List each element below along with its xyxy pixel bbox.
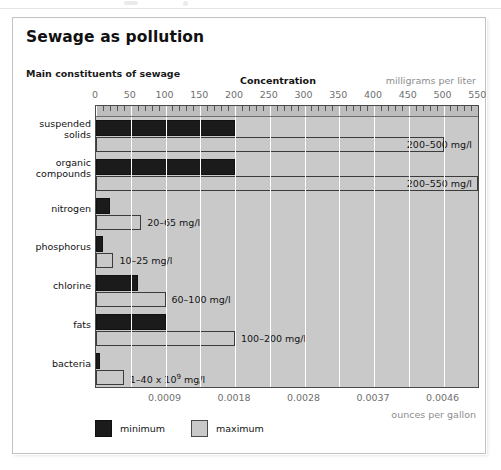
axis-minor-tick xyxy=(284,106,285,111)
axis-minor-tick xyxy=(430,106,431,111)
x-tick-label-primary: 350 xyxy=(329,89,347,100)
axis-minor-tick xyxy=(395,106,396,111)
axis-major-tick xyxy=(374,106,375,117)
bar-value-label: 100–200 mg/l xyxy=(241,331,306,346)
bar-row: 1–40 x 109 mg/l xyxy=(96,353,478,387)
y-axis-category-label: phosphorus xyxy=(13,241,91,252)
axis-major-tick xyxy=(305,106,306,117)
gridline xyxy=(339,117,340,387)
legend-item[interactable]: minimum xyxy=(95,417,165,439)
axis-minor-tick xyxy=(145,106,146,111)
artifact-divider xyxy=(0,8,501,9)
bar-maximum[interactable] xyxy=(96,370,124,385)
x-tick-label-primary: 0 xyxy=(92,89,98,100)
axis-minor-tick xyxy=(256,106,257,111)
bar-row: 200–550 mg/l xyxy=(96,159,478,193)
x-tick-label-primary: 550 xyxy=(468,89,486,100)
axis-major-tick xyxy=(166,106,167,117)
axis-minor-tick xyxy=(450,106,451,111)
axis-minor-tick xyxy=(381,106,382,111)
axis-minor-tick xyxy=(416,106,417,111)
axis-major-tick xyxy=(200,106,201,117)
bar-maximum[interactable] xyxy=(96,215,141,230)
axis-minor-tick xyxy=(214,106,215,111)
bar-row: 10–25 mg/l xyxy=(96,236,478,270)
bar-minimum[interactable] xyxy=(96,198,110,214)
category-label-line: organic xyxy=(13,157,91,168)
dark-square-icon xyxy=(95,420,112,437)
bar-value-label: 20–65 mg/l xyxy=(147,215,200,230)
x-tick-label-secondary: 0.0009 xyxy=(148,392,181,403)
x-tick-label-primary: 500 xyxy=(433,89,451,100)
gridline xyxy=(305,117,306,387)
axis-minor-tick xyxy=(103,106,104,111)
bar-minimum[interactable] xyxy=(96,236,103,252)
chart-card: Sewage as pollution Main constituents of… xyxy=(12,17,486,454)
y-axis-category-label: chlorine xyxy=(13,280,91,291)
axis-minor-tick xyxy=(388,106,389,111)
category-label-line: solids xyxy=(13,129,91,140)
axis-minor-tick xyxy=(152,106,153,111)
bar-row: 100–200 mg/l xyxy=(96,314,478,348)
bar-maximum[interactable] xyxy=(96,253,113,268)
artifact-mark-1 xyxy=(124,1,138,5)
axis-minor-tick xyxy=(193,106,194,111)
axis-major-tick xyxy=(96,106,97,117)
axis-minor-tick xyxy=(471,106,472,111)
bar-value-label: 10–25 mg/l xyxy=(119,253,172,268)
axis-minor-tick xyxy=(117,106,118,111)
axis-minor-tick xyxy=(110,106,111,111)
axis-minor-tick xyxy=(332,106,333,111)
axis-minor-tick xyxy=(457,106,458,111)
x-tick-label-primary: 100 xyxy=(155,89,173,100)
y-axis-category-label: bacteria xyxy=(13,358,91,369)
gridline xyxy=(235,117,236,387)
gridline xyxy=(444,117,445,387)
legend-item[interactable]: maximum xyxy=(191,417,264,439)
bar-value-label: 200–500 mg/l xyxy=(407,137,472,152)
category-label-line: compounds xyxy=(13,168,91,179)
axis-minor-tick xyxy=(346,106,347,111)
axis-major-tick xyxy=(409,106,410,117)
y-axis-category-label: organiccompounds xyxy=(13,157,91,179)
bar-row: 200–500 mg/l xyxy=(96,120,478,154)
axis-major-tick xyxy=(131,106,132,117)
axis-minor-tick xyxy=(311,106,312,111)
bar-minimum[interactable] xyxy=(96,353,100,369)
gridline xyxy=(270,117,271,387)
axis-minor-tick xyxy=(298,106,299,111)
x-tick-label-primary: 150 xyxy=(190,89,208,100)
gridline xyxy=(166,117,167,387)
y-axis-category-labels: suspendedsolidsorganiccompoundsnitrogenp… xyxy=(13,105,91,388)
axis-minor-tick xyxy=(242,106,243,111)
axis-minor-tick xyxy=(402,106,403,111)
axis-minor-tick xyxy=(360,106,361,111)
bar-row: 20–65 mg/l xyxy=(96,198,478,232)
x-tick-label-primary: 50 xyxy=(124,89,136,100)
top-edge-artifact xyxy=(0,0,501,14)
legend-label: minimum xyxy=(120,423,165,434)
axis-minor-tick xyxy=(277,106,278,111)
axis-minor-tick xyxy=(318,106,319,111)
axis-major-tick xyxy=(339,106,340,117)
plot-area: 200–500 mg/l200–550 mg/l20–65 mg/l10–25 … xyxy=(95,105,479,388)
axis-minor-tick xyxy=(186,106,187,111)
x-tick-label-primary: 300 xyxy=(294,89,312,100)
x-axis-unit-secondary: ounces per gallon xyxy=(391,409,476,420)
axis-major-tick xyxy=(270,106,271,117)
axis-minor-tick xyxy=(423,106,424,111)
gridline xyxy=(200,117,201,387)
bar-rows: 200–500 mg/l200–550 mg/l20–65 mg/l10–25 … xyxy=(96,117,478,387)
axis-major-tick xyxy=(444,106,445,117)
x-tick-label-secondary: 0.0018 xyxy=(217,392,250,403)
axis-minor-tick xyxy=(367,106,368,111)
axis-minor-tick xyxy=(249,106,250,111)
bar-value-label: 1–40 x 109 mg/l xyxy=(130,370,205,387)
axis-minor-tick xyxy=(464,106,465,111)
gridline xyxy=(409,117,410,387)
axis-minor-tick xyxy=(124,106,125,111)
gridline xyxy=(374,117,375,387)
y-axis-category-label: nitrogen xyxy=(13,203,91,214)
axis-minor-tick xyxy=(179,106,180,111)
bar-row: 60–100 mg/l xyxy=(96,275,478,309)
